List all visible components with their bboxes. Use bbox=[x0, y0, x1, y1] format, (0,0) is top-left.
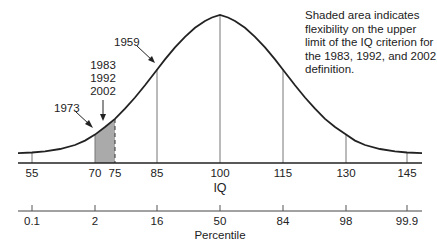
svg-text:85: 85 bbox=[151, 167, 164, 179]
percentile-tick-labels: 0.1 2 16 50 84 98 99.9 bbox=[24, 215, 418, 227]
annotation-1992: 1992 bbox=[90, 72, 116, 84]
svg-text:145: 145 bbox=[397, 167, 416, 179]
svg-text:99.9: 99.9 bbox=[396, 215, 418, 227]
svg-text:98: 98 bbox=[340, 215, 353, 227]
annotation-1959: 1959 bbox=[114, 36, 140, 48]
svg-text:84: 84 bbox=[277, 215, 290, 227]
annotation-1983: 1983 bbox=[90, 59, 116, 71]
percentile-ticks bbox=[32, 205, 407, 211]
shaded-area-note: Shaded area indicates flexibility on the… bbox=[305, 9, 437, 77]
arrowhead-2002 bbox=[100, 114, 106, 121]
percentile-axis-title: Percentile bbox=[194, 229, 245, 241]
svg-text:130: 130 bbox=[336, 167, 355, 179]
svg-text:55: 55 bbox=[26, 167, 39, 179]
svg-text:115: 115 bbox=[274, 167, 292, 179]
iq-axis-title: IQ bbox=[213, 181, 226, 195]
iq-tick-labels: 55 70 75 85 100 115 130 145 bbox=[26, 167, 417, 179]
svg-text:75: 75 bbox=[109, 167, 122, 179]
svg-text:16: 16 bbox=[151, 215, 164, 227]
shaded-region bbox=[95, 119, 115, 163]
svg-text:100: 100 bbox=[210, 167, 229, 179]
svg-text:2: 2 bbox=[92, 215, 98, 227]
annotation-1973: 1973 bbox=[54, 102, 80, 114]
svg-text:0.1: 0.1 bbox=[24, 215, 40, 227]
svg-text:50: 50 bbox=[214, 215, 227, 227]
annotation-2002: 2002 bbox=[90, 85, 116, 97]
svg-text:70: 70 bbox=[89, 167, 102, 179]
